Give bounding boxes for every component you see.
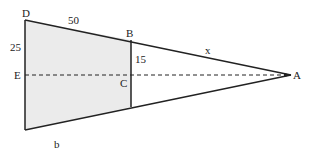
label-B: B [126, 27, 133, 39]
measure-DE: 25 [10, 41, 22, 53]
label-D: D [22, 7, 30, 19]
measure-DB: 50 [68, 14, 80, 26]
measure-bottom: b [54, 138, 60, 150]
label-C: C [120, 77, 127, 89]
diagram-canvas: D B E C A 50 25 15 x b [0, 0, 312, 154]
label-A: A [293, 69, 301, 81]
measure-BC: 15 [135, 53, 147, 65]
arrowhead-A [284, 73, 291, 77]
label-E: E [14, 69, 21, 81]
measure-BA: x [205, 44, 211, 56]
